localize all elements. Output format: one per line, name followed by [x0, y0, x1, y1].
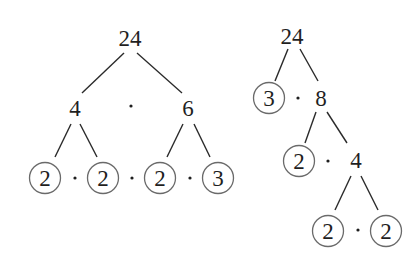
svg-text:2: 2 [39, 166, 51, 191]
right-prime-3: 3 [254, 83, 285, 114]
right-node-8: 8 [315, 86, 327, 111]
right-leaf-2b: 2 [313, 216, 344, 247]
left-leaf-2c: 2 [145, 163, 176, 194]
right-root-24: 24 [281, 24, 305, 49]
svg-text:2: 2 [380, 219, 392, 244]
svg-text:2: 2 [293, 149, 305, 174]
edge-24-to-3 [275, 49, 288, 81]
multiply-dot [73, 176, 76, 179]
left-factor-tree: 24 4 6 2 2 2 3 [30, 26, 234, 194]
multiply-dot [129, 104, 132, 107]
svg-text:2: 2 [97, 166, 109, 191]
edge-4-to-2a [335, 176, 351, 210]
svg-text:3: 3 [263, 86, 275, 111]
left-node-6: 6 [182, 96, 194, 121]
multiply-dot [188, 176, 191, 179]
left-leaf-2a: 2 [30, 163, 61, 194]
svg-text:2: 2 [154, 166, 166, 191]
svg-text:3: 3 [212, 166, 224, 191]
left-root-24: 24 [119, 26, 143, 51]
edge-24-to-4 [82, 53, 124, 93]
edge-4-to-2a [55, 124, 71, 157]
edge-8-to-2 [305, 112, 316, 143]
edge-4-to-2b [80, 124, 97, 157]
multiply-dot [356, 228, 359, 231]
right-prime-2a: 2 [284, 146, 315, 177]
left-leaf-3: 3 [203, 163, 234, 194]
edge-4-to-2b [361, 176, 378, 210]
multiply-dot [130, 176, 133, 179]
multiply-dot [326, 159, 329, 162]
edge-6-to-3 [194, 124, 210, 157]
edge-6-to-2 [167, 124, 183, 157]
right-factor-tree: 24 3 8 2 4 2 2 [254, 24, 402, 247]
left-leaf-2b: 2 [88, 163, 119, 194]
right-leaf-2c: 2 [371, 216, 402, 247]
edge-24-to-6 [137, 53, 182, 93]
svg-text:2: 2 [322, 219, 334, 244]
edge-8-to-4 [327, 112, 347, 143]
edge-24-to-8 [300, 49, 318, 81]
right-node-4: 4 [350, 148, 362, 173]
left-node-4: 4 [69, 96, 81, 121]
multiply-dot [296, 96, 299, 99]
factor-tree-diagram: 24 4 6 2 2 2 3 24 [0, 0, 414, 264]
